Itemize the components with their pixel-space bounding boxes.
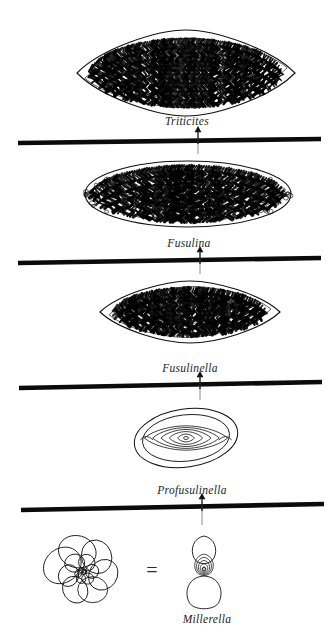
septal-speckle bbox=[130, 320, 135, 326]
test-outline bbox=[130, 402, 241, 474]
septal-speckle bbox=[188, 41, 190, 44]
septal-speckle bbox=[177, 64, 180, 68]
septal-speckle bbox=[201, 177, 205, 183]
septal-speckle bbox=[188, 294, 193, 298]
septal-speckle bbox=[150, 43, 155, 50]
septal-speckle bbox=[132, 81, 136, 84]
septal-speckle bbox=[188, 308, 189, 309]
septal-speckle bbox=[230, 91, 232, 94]
septal-speckle bbox=[160, 186, 162, 189]
septal-speckle bbox=[232, 325, 237, 329]
septal-speckle bbox=[158, 300, 161, 304]
septal-speckle bbox=[161, 42, 162, 43]
septal-speckle bbox=[203, 305, 206, 309]
septal-speckle bbox=[252, 55, 255, 57]
septal-speckle bbox=[138, 98, 141, 100]
septal-speckle bbox=[178, 317, 179, 318]
septal-speckle bbox=[176, 79, 180, 83]
septal-speckle bbox=[103, 84, 106, 86]
septal-speckle bbox=[227, 185, 231, 188]
septal-speckle bbox=[170, 204, 173, 206]
septal-speckle bbox=[135, 316, 136, 317]
septal-speckle bbox=[177, 92, 178, 94]
septal-speckle bbox=[244, 60, 247, 65]
septal-speckle bbox=[194, 297, 196, 299]
septal-speckle bbox=[191, 324, 194, 328]
septal-speckle bbox=[102, 72, 106, 76]
septal-speckle bbox=[137, 62, 141, 68]
septal-speckle bbox=[122, 54, 125, 56]
septal-speckle bbox=[91, 74, 94, 77]
septal-speckle bbox=[170, 86, 173, 89]
septal-speckle bbox=[126, 305, 131, 312]
septal-speckle bbox=[153, 314, 158, 322]
proloculus bbox=[203, 568, 206, 571]
septal-speckle bbox=[220, 295, 224, 300]
label-triticites: Triticites bbox=[165, 115, 209, 127]
septal-speckle bbox=[259, 307, 262, 311]
septal-speckle bbox=[257, 77, 260, 81]
septal-speckle bbox=[125, 81, 128, 85]
septal-speckle bbox=[109, 74, 111, 76]
septal-speckle bbox=[167, 99, 172, 106]
septal-speckle bbox=[224, 310, 229, 313]
septal-speckle bbox=[125, 320, 128, 324]
septal-speckle bbox=[134, 51, 137, 55]
septal-speckle bbox=[103, 78, 106, 81]
septal-speckle bbox=[245, 65, 249, 69]
septal-speckle bbox=[155, 202, 159, 208]
septal-speckle bbox=[181, 76, 183, 77]
septal-speckle bbox=[234, 85, 236, 88]
septal-speckle bbox=[186, 310, 190, 316]
septal-speckle bbox=[236, 86, 240, 91]
septal-speckle bbox=[219, 70, 222, 72]
septal-speckle bbox=[159, 92, 160, 94]
septal-speckle bbox=[248, 323, 249, 325]
septal-speckle bbox=[223, 323, 228, 328]
septal-speckle bbox=[234, 96, 236, 99]
septal-speckle bbox=[181, 95, 183, 97]
septal-speckle bbox=[189, 60, 192, 64]
septal-speckle bbox=[222, 194, 226, 200]
septal-speckle bbox=[189, 87, 194, 92]
label-fusulinella: Fusulinella bbox=[162, 362, 218, 374]
septal-speckle bbox=[227, 73, 228, 74]
septal-speckle bbox=[261, 72, 264, 75]
septal-speckle bbox=[223, 91, 227, 94]
septal-speckle bbox=[98, 64, 99, 65]
septal-speckle bbox=[159, 67, 160, 68]
septal-speckle bbox=[230, 84, 231, 85]
septal-speckle bbox=[261, 89, 264, 92]
septal-speckle bbox=[137, 318, 138, 320]
septal-speckle bbox=[184, 79, 185, 80]
septal-speckle bbox=[249, 61, 252, 64]
stratigraphic-boundary-2 bbox=[18, 258, 321, 263]
septal-speckle bbox=[242, 87, 243, 88]
septal-speckle bbox=[187, 84, 189, 86]
septal-speckle bbox=[245, 92, 246, 93]
septal-speckle bbox=[196, 66, 198, 68]
septal-speckle bbox=[252, 65, 255, 68]
septal-speckle bbox=[159, 181, 161, 184]
septal-speckle bbox=[148, 303, 150, 304]
septal-speckle bbox=[182, 182, 183, 183]
septal-speckle bbox=[131, 315, 134, 317]
septal-speckle bbox=[199, 209, 201, 211]
septal-speckle bbox=[155, 308, 160, 312]
septal-speckle bbox=[205, 50, 209, 53]
septal-speckle bbox=[128, 299, 133, 305]
septal-speckle bbox=[171, 69, 176, 72]
septal-speckle bbox=[191, 66, 194, 70]
septal-speckle bbox=[275, 66, 277, 69]
septal-speckle bbox=[237, 315, 238, 317]
septal-speckle bbox=[210, 88, 214, 92]
septal-speckle bbox=[119, 311, 123, 318]
septal-speckle bbox=[227, 182, 229, 185]
septal-speckle bbox=[265, 65, 269, 71]
septal-speckle bbox=[230, 188, 232, 190]
septal-speckle bbox=[235, 296, 240, 303]
septal-speckle bbox=[175, 329, 180, 333]
label-fusulina: Fusulina bbox=[167, 237, 210, 249]
septal-speckle bbox=[126, 47, 130, 52]
septal-speckle bbox=[208, 327, 210, 330]
